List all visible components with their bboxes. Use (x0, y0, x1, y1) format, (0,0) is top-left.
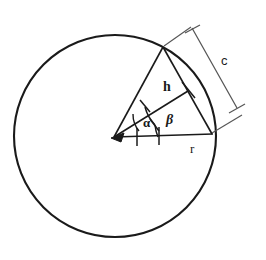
chord-dimension-label: c (221, 54, 228, 67)
angle-beta-label: β (166, 113, 173, 127)
radius-label: r (190, 142, 194, 155)
diagram-canvas (0, 0, 266, 260)
apothem-foot-mark (182, 82, 195, 98)
extension-line-bottom (212, 115, 242, 133)
dimension-line-c (192, 28, 237, 108)
radius-horizontal-line (114, 134, 213, 137)
extension-line-top (164, 27, 191, 46)
geometry-figure: c h r α β (0, 0, 266, 260)
arc-tick-upper-radius (140, 100, 150, 112)
apothem-line (114, 91, 188, 137)
angle-alpha-label: α (143, 116, 150, 129)
radius-upper-line (114, 47, 163, 137)
arc-tick-apothem (150, 119, 159, 131)
dimension-tick-bottom (229, 104, 245, 113)
apothem-label: h (163, 80, 171, 94)
